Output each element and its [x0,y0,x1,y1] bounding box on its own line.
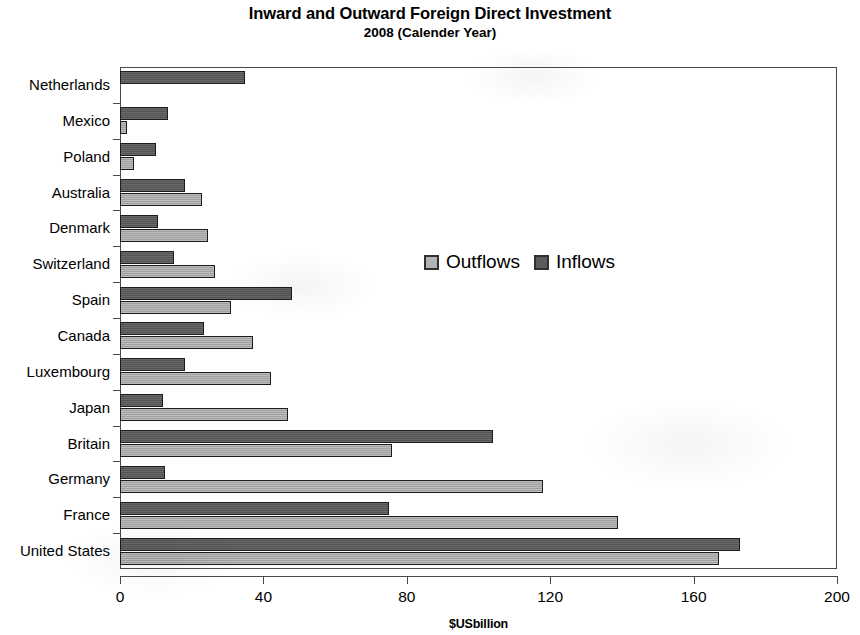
x-axis-tick-label: 160 [664,588,724,605]
y-axis-label-japan: Japan [0,400,110,416]
chart-subtitle: 2008 (Calender Year) [0,24,860,41]
y-axis-label-united-states: United States [0,543,110,559]
chart-legend: Outflows Inflows [424,252,615,272]
y-axis-labels: NetherlandsMexicoPolandAustraliaDenmarkS… [0,67,860,569]
y-axis-label-britain: Britain [0,436,110,452]
chart-title: Inward and Outward Foreign Direct Invest… [0,4,860,23]
y-axis-label-netherlands: Netherlands [0,77,110,93]
chart-root: Inward and Outward Foreign Direct Invest… [0,0,860,635]
y-axis-label-spain: Spain [0,292,110,308]
x-axis-tick-label: 120 [520,588,580,605]
x-axis-tick [407,576,408,584]
x-axis-tick-label: 80 [377,588,437,605]
y-axis-label-poland: Poland [0,149,110,165]
x-axis-tick [120,576,121,584]
x-axis-tick-label: 40 [233,588,293,605]
legend-entry-inflows: Inflows [534,252,615,272]
legend-entry-outflows: Outflows [424,252,520,272]
x-axis-tick [550,576,551,584]
x-axis-title: $USbillion [120,617,837,631]
x-axis-tick-label: 200 [807,588,860,605]
x-axis-line [120,576,837,577]
y-axis-label-canada: Canada [0,328,110,344]
x-axis-tick [263,576,264,584]
legend-swatch-outflows-icon [424,255,439,270]
x-axis-tick [694,576,695,584]
legend-label-inflows: Inflows [556,252,615,272]
x-axis-tick [837,576,838,584]
legend-swatch-inflows-icon [534,255,549,270]
y-axis-label-denmark: Denmark [0,220,110,236]
chart-title-block: Inward and Outward Foreign Direct Invest… [0,4,860,41]
y-axis-label-france: France [0,507,110,523]
y-axis-label-luxembourg: Luxembourg [0,364,110,380]
y-axis-label-australia: Australia [0,185,110,201]
y-axis-label-switzerland: Switzerland [0,256,110,272]
x-axis-tick-label: 0 [90,588,150,605]
legend-label-outflows: Outflows [446,252,520,272]
y-axis-label-mexico: Mexico [0,113,110,129]
y-axis-label-germany: Germany [0,471,110,487]
